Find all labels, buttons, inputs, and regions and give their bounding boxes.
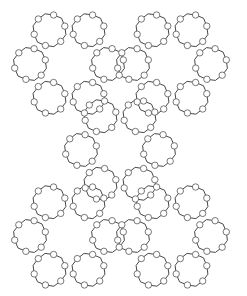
oxygen-atom — [42, 110, 48, 116]
oxygen-atom — [50, 12, 56, 18]
oxygen-atom — [89, 79, 95, 85]
oxygen-atom — [16, 222, 22, 228]
oxygen-atom — [115, 237, 121, 243]
oxygen-atom — [204, 248, 210, 254]
oxygen-atom — [184, 110, 190, 116]
oxygen-atom — [86, 102, 92, 108]
oxygen-atom — [82, 132, 88, 138]
oxygen-atom — [113, 109, 119, 115]
oxygen-atom — [141, 151, 147, 157]
oxygen-atom — [81, 110, 87, 116]
oxygen-atom — [212, 46, 218, 52]
oxygen-atom — [165, 91, 171, 97]
oxygen-atom — [109, 124, 115, 130]
oxygen-atom — [153, 184, 159, 190]
oxygen-atom — [160, 132, 166, 138]
oxygen-atom — [42, 229, 48, 235]
oxygen-atom — [173, 203, 179, 209]
oxygen-atom — [58, 210, 64, 216]
oxygen-atom — [101, 23, 107, 29]
oxygen-atom — [82, 117, 88, 123]
oxygen-atom — [74, 16, 80, 22]
oxygen-atom — [219, 244, 225, 250]
oxygen-atom — [138, 83, 144, 89]
oxygen-atom — [138, 16, 144, 22]
oxygen-atom — [89, 251, 95, 257]
oxygen-atom — [184, 42, 190, 48]
oxygen-atom — [200, 106, 206, 112]
oxygen-atom — [140, 98, 146, 104]
oxygen-atom — [38, 72, 44, 78]
oxygen-atom — [173, 271, 179, 277]
oxygen-atom — [116, 244, 122, 250]
oxygen-atom — [204, 91, 210, 97]
oxygen-atom — [153, 79, 159, 85]
oxygen-atom — [90, 237, 96, 243]
oxygen-atom — [120, 57, 126, 63]
oxygen-atom — [16, 50, 22, 56]
oxygen-atom — [132, 128, 138, 134]
oxygen-atom — [70, 99, 76, 105]
oxygen-atom — [177, 16, 183, 22]
oxygen-atom — [97, 106, 103, 112]
oxygen-atom — [138, 255, 144, 261]
oxygen-atom — [67, 136, 73, 142]
oxygen-atom — [81, 282, 87, 288]
oxygen-atom — [197, 50, 203, 56]
oxygen-atom — [132, 196, 138, 202]
oxygen-atom — [193, 65, 199, 71]
oxygen-atom — [58, 38, 64, 44]
oxygen-atom — [193, 237, 199, 243]
oxygen-atom — [74, 255, 80, 261]
oxygen-atom — [58, 106, 64, 112]
oxygen-atom — [223, 229, 229, 235]
oxygen-atom — [35, 188, 41, 194]
oxygen-atom — [74, 188, 80, 194]
oxygen-atom — [89, 12, 95, 18]
zeolite-framework-diagram — [0, 0, 247, 296]
oxygen-atom — [126, 248, 132, 254]
oxygen-atom — [119, 222, 125, 228]
oxygen-atom — [204, 195, 210, 201]
oxygen-atom — [89, 158, 95, 164]
oxygen-atom — [161, 210, 167, 216]
oxygen-atom — [70, 203, 76, 209]
oxygen-atom — [31, 46, 37, 52]
oxygen-atom — [101, 263, 107, 269]
atom-layer — [12, 12, 230, 288]
oxygen-atom — [62, 263, 68, 269]
oxygen-atom — [35, 83, 41, 89]
oxygen-atom — [97, 38, 103, 44]
oxygen-atom — [134, 203, 140, 209]
oxygen-atom — [173, 31, 179, 37]
oxygen-atom — [177, 188, 183, 194]
oxygen-atom — [165, 23, 171, 29]
oxygen-atom — [204, 76, 210, 82]
oxygen-atom — [145, 214, 151, 220]
oxygen-atom — [119, 50, 125, 56]
oxygen-atom — [134, 271, 140, 277]
oxygen-atom — [161, 106, 167, 112]
oxygen-atom — [31, 271, 37, 277]
oxygen-atom — [93, 196, 99, 202]
oxygen-atom — [152, 162, 158, 168]
oxygen-atom — [140, 165, 146, 171]
oxygen-atom — [62, 195, 68, 201]
oxygen-atom — [23, 76, 29, 82]
oxygen-atom — [93, 143, 99, 149]
oxygen-atom — [192, 12, 198, 18]
oxygen-atom — [145, 110, 151, 116]
oxygen-atom — [93, 128, 99, 134]
oxygen-atom — [116, 72, 122, 78]
oxygen-atom — [70, 31, 76, 37]
oxygen-atom — [126, 76, 132, 82]
oxygen-atom — [90, 65, 96, 71]
oxygen-atom — [31, 31, 37, 37]
oxygen-atom — [12, 237, 18, 243]
oxygen-atom — [58, 278, 64, 284]
oxygen-atom — [134, 46, 140, 52]
oxygen-atom — [94, 222, 100, 228]
oxygen-atom — [70, 271, 76, 277]
oxygen-atom — [145, 57, 151, 63]
oxygen-atom — [192, 184, 198, 190]
